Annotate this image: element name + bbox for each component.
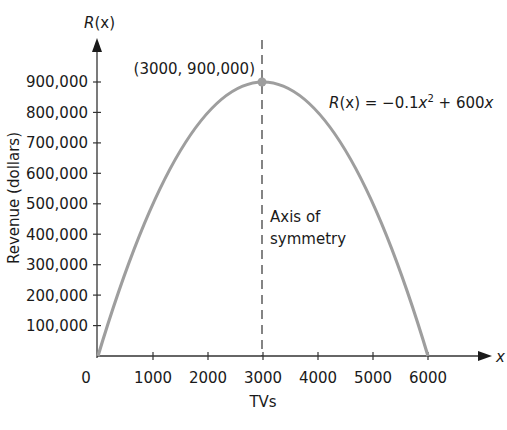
x-tick-label: 0 (81, 369, 91, 387)
x-tick-label: 3000 (244, 369, 282, 387)
vertex-point (258, 78, 267, 87)
x-axis-symbol: x (495, 348, 505, 366)
y-axis-arrow-icon (92, 38, 102, 52)
axis-of-symmetry-label-line1: Axis of (270, 208, 321, 226)
y-symbol-paren: (x) (94, 14, 115, 32)
x-tick-label: 2000 (189, 369, 227, 387)
y-axis-symbol: R(x) (84, 14, 115, 32)
y-symbol-r: R (84, 14, 94, 32)
eq-rest: + 600 (434, 94, 485, 112)
y-tick-label: 800,000 (26, 104, 88, 122)
y-axis-title: Revenue (dollars) (5, 132, 23, 264)
revenue-curve (98, 82, 428, 356)
eq-r: R (329, 94, 339, 112)
x-tick-label: 1000 (134, 369, 172, 387)
axis-of-symmetry-label-line2: symmetry (270, 230, 346, 248)
x-axis-arrow-icon (478, 351, 492, 361)
y-tick-label: 900,000 (26, 73, 88, 91)
x-tick-label: 6000 (409, 369, 447, 387)
y-tick-label: 100,000 (26, 317, 88, 335)
eq-x-end: x (484, 94, 494, 112)
y-tick-label: 300,000 (26, 256, 88, 274)
y-tick-label: 600,000 (26, 165, 88, 183)
x-tick-label: 4000 (299, 369, 337, 387)
eq-body: (x) = −0.1 (339, 94, 418, 112)
y-tick-label: 700,000 (26, 134, 88, 152)
eq-x2: x (418, 94, 428, 112)
y-tick-label: 200,000 (26, 287, 88, 305)
vertex-label: (3000, 900,000) (134, 60, 255, 78)
y-tick-label: 400,000 (26, 226, 88, 244)
x-tick-label: 5000 (354, 369, 392, 387)
revenue-chart: 100,000 200,000 300,000 400,000 500,000 … (0, 0, 507, 430)
x-tick-labels: 0 1000 2000 3000 4000 5000 6000 (81, 369, 447, 387)
y-tick-labels: 100,000 200,000 300,000 400,000 500,000 … (26, 73, 88, 335)
equation-label: R(x) = −0.1x2 + 600x (329, 93, 494, 112)
y-tick-label: 500,000 (26, 195, 88, 213)
x-axis-title: TVs (248, 393, 276, 411)
